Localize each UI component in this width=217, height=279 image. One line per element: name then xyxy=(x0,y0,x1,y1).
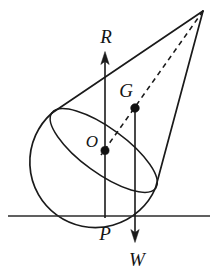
label-centre-of-sphere-o: O xyxy=(86,132,98,151)
reaction-force-vector xyxy=(101,52,109,219)
label-weight-w: W xyxy=(129,249,147,270)
label-contact-point-p: P xyxy=(98,223,111,244)
point-o-dot xyxy=(101,146,109,154)
weight-force-vector xyxy=(131,108,139,243)
cone-on-hemisphere-diagram: R G O P W xyxy=(0,0,217,279)
cone-axis-dashed-line xyxy=(101,11,203,155)
point-g-dot xyxy=(131,104,140,113)
figure-canvas: R G O P W xyxy=(0,0,217,279)
label-centre-of-gravity-g: G xyxy=(119,80,133,101)
label-reaction-r: R xyxy=(99,26,112,47)
